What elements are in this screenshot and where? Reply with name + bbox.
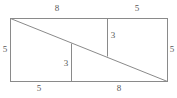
upper-segment-length-label: 3 [107, 31, 119, 40]
top-right-length-label: 5 [131, 4, 143, 13]
left-height-label: 5 [0, 45, 11, 54]
lower-segment-length-label: 3 [60, 59, 72, 68]
diagonal-line [11, 19, 168, 82]
top-left-length-label: 8 [51, 4, 63, 13]
geometry-figure: 8 5 5 5 3 3 5 8 [0, 0, 177, 98]
bottom-right-length-label: 8 [113, 84, 125, 93]
figure-canvas [0, 0, 177, 98]
right-height-label: 5 [166, 45, 177, 54]
bottom-left-length-label: 5 [33, 84, 45, 93]
